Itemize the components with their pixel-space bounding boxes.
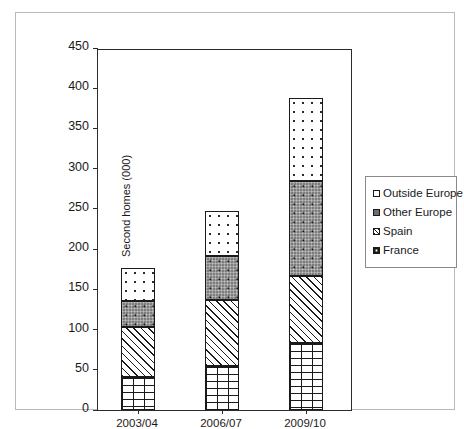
legend-item-france[interactable]: France — [373, 241, 450, 260]
legend-label: Outside Europe — [383, 188, 463, 200]
chart-legend: Outside EuropeOther EuropeSpainFrance — [365, 176, 457, 268]
y-tick-label: 450 — [68, 39, 89, 53]
legend-swatch-icon — [373, 247, 380, 254]
figure-frame: Second homes (000) 050100150200250300350… — [15, 12, 455, 410]
bar-segment-spain — [205, 300, 239, 366]
bar-stack — [289, 98, 323, 410]
y-tick-label: 250 — [68, 200, 89, 214]
legend-swatch-icon — [373, 228, 380, 235]
y-tick-label: 50 — [75, 361, 89, 375]
legend-label: Spain — [383, 226, 412, 238]
x-axis-label-1: 2006/07 — [176, 417, 266, 429]
legend-label: France — [383, 245, 419, 257]
legend-item-outside-europe[interactable]: Outside Europe — [373, 184, 450, 203]
y-tick-label: 350 — [68, 119, 89, 133]
legend-item-other-europe[interactable]: Other Europe — [373, 203, 450, 222]
y-tick-label: 150 — [68, 280, 89, 294]
y-tick-label: 400 — [68, 79, 89, 93]
chart-figure: Second homes (000) 050100150200250300350… — [0, 0, 464, 429]
bar-segment-outside-europe — [205, 211, 239, 255]
x-axis-label-0: 2003/04 — [92, 417, 182, 429]
bar-segment-outside-europe — [121, 268, 155, 301]
legend-swatch-icon — [373, 190, 380, 197]
y-tick-label: 0 — [82, 401, 89, 415]
bar-series-layer — [98, 50, 351, 410]
bar-stack — [205, 211, 239, 410]
x-axis-label-2: 2009/10 — [260, 417, 350, 429]
plot-area: Second homes (000) 050100150200250300350… — [97, 49, 352, 411]
y-tick-label: 300 — [68, 160, 89, 174]
bar-segment-other-europe — [205, 256, 239, 300]
bar-segment-spain — [289, 276, 323, 344]
bar-segment-outside-europe — [289, 98, 323, 181]
bar-segment-other-europe — [289, 181, 323, 276]
y-tick-label: 100 — [68, 321, 89, 335]
bar-segment-france — [289, 343, 323, 410]
legend-swatch-icon — [373, 209, 380, 216]
bar-segment-france — [121, 377, 155, 410]
legend-item-spain[interactable]: Spain — [373, 222, 450, 241]
legend-label: Other Europe — [383, 207, 452, 219]
x-tick-mark — [138, 410, 139, 414]
bar-segment-spain — [121, 327, 155, 377]
x-tick-mark — [222, 410, 223, 414]
x-tick-mark — [306, 410, 307, 414]
bar-stack — [121, 268, 155, 410]
bar-segment-france — [205, 366, 239, 410]
y-tick-mark — [93, 48, 98, 49]
bar-segment-other-europe — [121, 301, 155, 327]
y-tick-label: 200 — [68, 240, 89, 254]
